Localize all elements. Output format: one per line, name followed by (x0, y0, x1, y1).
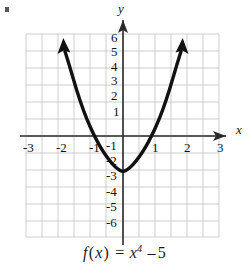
y-tick-label-neg4: -4 (106, 185, 117, 198)
y-tick-label-neg5: -5 (106, 200, 117, 213)
x-tick-label-3: 3 (217, 141, 224, 154)
x-tick-label-neg2: -2 (56, 141, 67, 154)
y-tick-label-neg3: -3 (106, 169, 117, 182)
y-tick-label-6: 6 (111, 31, 118, 44)
equation-constant: 5 (157, 244, 167, 261)
y-tick-label-4: 4 (111, 60, 118, 73)
function-graph-figure: y x -3 -2 -1 1 2 3 6 5 4 3 2 1 -1 -2 -3 … (0, 0, 250, 273)
x-tick-label-neg1: -1 (89, 141, 100, 154)
y-tick-label-neg1: -1 (106, 139, 117, 152)
equation-equals: = (114, 244, 125, 261)
x-tick-label-2: 2 (184, 141, 191, 154)
y-tick-label-2: 2 (111, 89, 118, 102)
x-axis-label: x (236, 122, 242, 138)
equation-rhs-var: x (130, 244, 137, 261)
y-axis (118, 20, 128, 245)
y-tick-label-neg2: -2 (106, 154, 117, 167)
equation-lhs-var: x (95, 244, 102, 261)
function-equation-caption: f(x) = x4 –5 (0, 243, 250, 262)
equation-paren-close: ) (103, 244, 111, 261)
y-tick-label-neg6: -6 (106, 216, 117, 229)
x-tick-label-1: 1 (152, 141, 159, 154)
equation-minus: – (146, 244, 156, 261)
y-tick-label-1: 1 (113, 105, 120, 118)
y-tick-label-3: 3 (111, 74, 118, 87)
y-tick-label-5: 5 (111, 45, 118, 58)
equation-exponent: 4 (137, 243, 142, 254)
x-tick-label-neg3: -3 (23, 141, 34, 154)
graph-canvas (0, 0, 250, 250)
y-axis-label: y (118, 1, 124, 17)
